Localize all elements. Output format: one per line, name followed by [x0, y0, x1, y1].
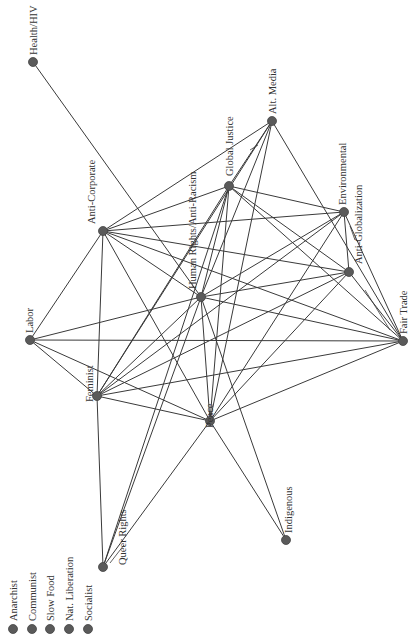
node-label: Alt. Media: [267, 68, 278, 114]
legend-dot: [65, 625, 74, 634]
node-environmental: Environmental: [337, 143, 349, 217]
edge-globaljustice-antiglob: [229, 186, 349, 272]
edge-peace-fairtrade: [210, 341, 403, 421]
legend: AnarchistCommunistSlow FoodNat. Liberati…: [8, 556, 94, 633]
legend-dot: [46, 625, 55, 634]
edge-environmental-peace: [210, 212, 344, 421]
edge-peace-indigenous: [210, 421, 286, 540]
legend-item: Slow Food: [45, 574, 56, 633]
node-label: Indigenous: [283, 486, 294, 533]
node-dot: [225, 182, 234, 191]
node-dot: [29, 58, 38, 67]
node-altmedia: Alt. Media: [267, 68, 278, 125]
edge-altmedia-peace: [210, 121, 272, 421]
node-dot: [282, 536, 291, 545]
edge-globaljustice-anticorp: [103, 186, 229, 231]
edge-feminist-queer: [97, 396, 103, 567]
node-label: Environmental: [337, 143, 348, 205]
legend-dot: [28, 625, 37, 634]
network-graph: Health/HIVAlt. MediaGlobal JusticeAnti-C…: [0, 0, 418, 643]
legend-item: Communist: [27, 572, 38, 634]
node-dot: [99, 563, 108, 572]
edge-humanrights-labor: [30, 297, 201, 340]
edge-globaljustice-feminist: [97, 186, 229, 396]
edge-antiglob-feminist: [97, 272, 349, 396]
edge-antiglob-peace: [210, 272, 349, 421]
node-label: Fair Trade: [398, 290, 409, 334]
edge-anticorp-labor: [30, 231, 103, 340]
legend-label: Nat. Liberation: [64, 556, 75, 621]
node-label: Global Justice: [224, 116, 235, 176]
edge-anticorp-antiglob: [103, 231, 349, 272]
node-label: Queer Rights: [117, 509, 128, 565]
legend-item: Nat. Liberation: [64, 556, 75, 633]
legend-item: Anarchist: [8, 580, 19, 633]
edge-anticorp-environmental: [103, 212, 344, 231]
node-label: Anti-Globalization: [353, 184, 364, 264]
node-dot: [268, 117, 277, 126]
legend-item: Socialist: [83, 585, 94, 634]
node-label: Feminist: [84, 365, 95, 402]
node-label: Peace: [204, 403, 215, 428]
node-health: Health/HIV: [28, 5, 39, 66]
node-dot: [26, 336, 35, 345]
edge-antiglob-humanrights: [201, 272, 349, 297]
node-dot: [399, 337, 408, 346]
node-humanrights: Human Rights/Anti-Racism: [187, 171, 206, 301]
edge-feminist-fairtrade: [97, 341, 403, 396]
node-dot: [345, 268, 354, 277]
legend-dot: [84, 625, 93, 634]
node-dot: [340, 208, 349, 217]
edge-globaljustice-environmental: [229, 186, 344, 212]
node-queer: Queer Rights: [99, 509, 129, 571]
edge-labor-fairtrade: [30, 340, 403, 341]
edges-layer: [30, 62, 403, 567]
node-labor: Labor: [24, 307, 35, 344]
edge-feminist-peace: [97, 396, 210, 421]
legend-label: Socialist: [83, 585, 94, 621]
edge-health-humanrights: [33, 62, 201, 297]
node-label: Labor: [24, 307, 35, 333]
legend-label: Anarchist: [8, 580, 19, 621]
node-label: Health/HIV: [28, 5, 39, 55]
node-anticorp: Anti-Corporate: [86, 160, 108, 236]
node-peace: Peace: [204, 403, 215, 428]
legend-label: Slow Food: [45, 574, 56, 621]
node-dot: [197, 293, 206, 302]
node-label: Human Rights/Anti-Racism: [187, 171, 198, 289]
node-dot: [99, 227, 108, 236]
node-label: Anti-Corporate: [86, 160, 97, 224]
legend-label: Communist: [27, 572, 38, 621]
legend-dot: [9, 625, 18, 634]
